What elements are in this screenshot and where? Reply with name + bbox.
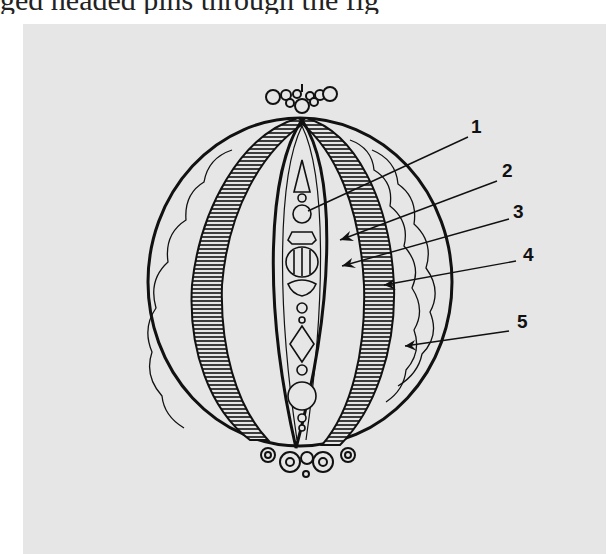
label-5: 5: [517, 311, 528, 333]
label-2: 2: [502, 160, 513, 182]
top-ornament: [266, 84, 337, 113]
label-1: 1: [471, 116, 482, 138]
label-4: 4: [523, 244, 534, 266]
central-pendant: [286, 160, 318, 431]
bottom-ornament: [261, 448, 355, 477]
ornamental-sphere-diagram: [0, 0, 610, 554]
label-3: 3: [513, 201, 524, 223]
